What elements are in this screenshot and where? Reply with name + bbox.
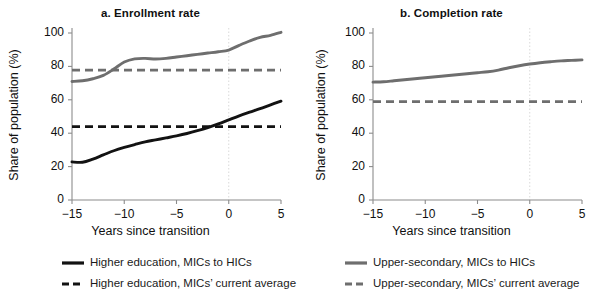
y-tick-label: 0 [57, 192, 64, 206]
legend-column-upper-secondary: Upper-secondary, MICs to HICs Upper-seco… [345, 252, 602, 294]
x-tick-label: 5 [256, 207, 306, 221]
legend-line-solid-gray-icon [345, 257, 367, 269]
y-tick-label: 60 [352, 92, 365, 106]
legend-item-label: Higher education, MICs to HICs [90, 256, 252, 269]
legend-column-higher-education: Higher education, MICs to HICs Higher ed… [62, 252, 332, 294]
legend-item-label: Upper-secondary, MICs to HICs [373, 256, 535, 269]
legend-item: Higher education, MICs to HICs [62, 252, 332, 273]
legend-item: Upper-secondary, MICs’ current average [345, 273, 602, 294]
y-tick-label: 60 [51, 92, 64, 106]
legend-item: Higher education, MICs’ current average [62, 273, 332, 294]
x-tick-label: −15 [348, 207, 398, 221]
legend-line-solid-black-icon [62, 257, 84, 269]
y-tick-label: 40 [51, 125, 64, 139]
legend-item-label: Upper-secondary, MICs’ current average [373, 277, 579, 290]
x-tick-label: −10 [400, 207, 450, 221]
y-tick-label: 100 [345, 25, 365, 39]
x-tick-label: −5 [453, 207, 503, 221]
y-tick-label: 80 [352, 58, 365, 72]
y-tick-label: 80 [51, 58, 64, 72]
legend-item: Upper-secondary, MICs to HICs [345, 252, 602, 273]
figure-root: a. Enrollment rate Share of population (… [0, 0, 602, 296]
legend-line-dashed-gray-icon [345, 278, 367, 290]
panel-completion-rate: b. Completion rate Share of population (… [301, 0, 602, 250]
x-tick-label: 0 [204, 207, 254, 221]
panels-container: a. Enrollment rate Share of population (… [0, 0, 602, 250]
chart-legend: Higher education, MICs to HICs Higher ed… [0, 252, 602, 296]
y-tick-label: 0 [358, 192, 365, 206]
panel-enrollment-rate: a. Enrollment rate Share of population (… [0, 0, 301, 250]
x-tick-label: −15 [47, 207, 97, 221]
y-tick-label: 20 [51, 159, 64, 173]
x-tick-label: 5 [557, 207, 602, 221]
legend-item-label: Higher education, MICs’ current average [90, 277, 296, 290]
legend-line-dashed-black-icon [62, 278, 84, 290]
y-tick-label: 40 [352, 125, 365, 139]
y-tick-label: 100 [44, 25, 64, 39]
y-tick-label: 20 [352, 159, 365, 173]
x-tick-label: −10 [99, 207, 149, 221]
x-tick-label: −5 [152, 207, 202, 221]
x-tick-label: 0 [505, 207, 555, 221]
